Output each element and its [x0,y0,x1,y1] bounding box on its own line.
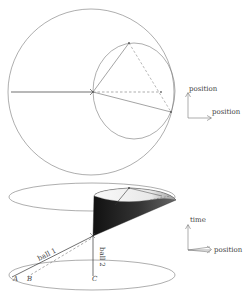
ball2-outgoing [93,92,171,112]
top-axis-label-vertical: position [189,85,218,93]
vertex-top [128,42,130,44]
bottom-diagram: ball 1 ball 2 A B C time position [9,183,243,290]
spacetime-diagram: position position ball 1 ball 2 A B C [0,0,249,294]
vertex-right [170,111,172,113]
bottom-axis-label-vertical: time [190,216,206,224]
rim-point [128,187,130,189]
top-axes: position position [186,85,241,121]
bottom-axes: time position [186,216,243,254]
small-circle [93,43,175,139]
ball1-worldline [12,236,93,277]
point-label-c: C [92,275,98,283]
point-label-a: A [12,275,18,283]
top-axis-label-horizontal: position [212,108,241,116]
center-point [160,91,162,93]
bottom-axis-label-horizontal: position [214,246,243,254]
top-diagram: position position [8,9,241,175]
point-label-b: B [26,275,32,283]
ball2-label: ball 2 [98,247,106,267]
